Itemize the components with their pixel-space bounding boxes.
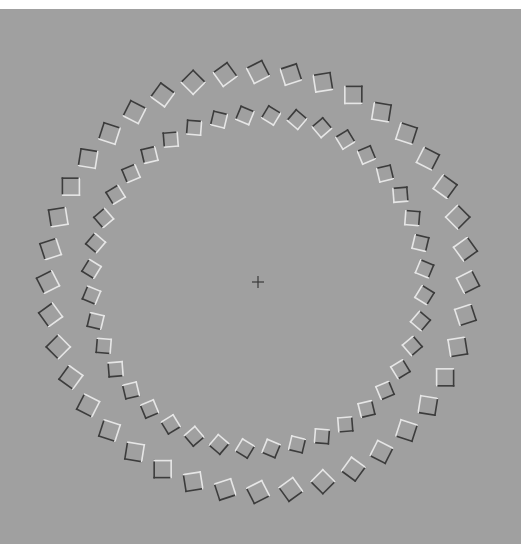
square-element xyxy=(287,110,307,130)
square-element xyxy=(181,70,205,94)
square-element xyxy=(370,440,393,463)
square-element xyxy=(78,149,97,168)
square-element xyxy=(87,313,104,330)
square-element xyxy=(46,335,70,359)
fixation-cross-icon xyxy=(252,276,264,288)
square-element xyxy=(184,426,204,446)
square-element xyxy=(140,400,158,418)
square-element xyxy=(161,415,180,434)
square-element xyxy=(261,106,280,125)
square-element xyxy=(154,461,171,478)
square-element xyxy=(396,123,417,144)
square-element xyxy=(433,175,457,199)
square-element xyxy=(341,457,365,481)
square-element xyxy=(279,478,303,502)
square-element xyxy=(412,235,429,252)
square-element xyxy=(446,205,470,229)
square-element xyxy=(358,401,375,418)
square-element xyxy=(37,271,60,294)
square-element xyxy=(396,420,417,441)
square-element xyxy=(125,442,144,461)
square-element xyxy=(415,260,433,278)
square-element xyxy=(106,185,125,204)
square-element xyxy=(49,207,68,226)
square-element xyxy=(448,337,467,356)
square-element xyxy=(314,429,329,444)
square-element xyxy=(377,165,394,182)
square-element xyxy=(247,61,270,84)
square-element xyxy=(123,382,140,399)
square-element xyxy=(457,271,480,294)
rotating-rings-illusion xyxy=(0,9,521,544)
square-element xyxy=(39,303,63,327)
square-element xyxy=(99,123,120,144)
square-element xyxy=(357,146,375,164)
square-element xyxy=(59,365,83,389)
square-element xyxy=(183,472,202,491)
square-element xyxy=(82,259,101,278)
square-element xyxy=(345,86,362,103)
square-element xyxy=(236,106,254,124)
square-element xyxy=(405,211,420,226)
square-element xyxy=(94,208,114,228)
square-element xyxy=(141,147,158,164)
square-element xyxy=(209,435,229,455)
square-element xyxy=(211,111,228,128)
square-element xyxy=(338,417,353,432)
square-element xyxy=(393,187,408,202)
square-element xyxy=(311,470,335,494)
square-element xyxy=(214,479,235,500)
square-element xyxy=(280,64,301,85)
square-element xyxy=(289,436,306,453)
square-element xyxy=(437,369,454,386)
square-element xyxy=(62,178,79,195)
square-element xyxy=(108,362,123,377)
square-element xyxy=(99,420,120,441)
square-element xyxy=(122,164,140,182)
square-element xyxy=(372,102,391,121)
square-element xyxy=(151,83,175,107)
square-element xyxy=(163,132,178,147)
square-element xyxy=(312,118,332,138)
square-element xyxy=(123,101,146,124)
square-element xyxy=(86,233,106,253)
square-element xyxy=(415,285,434,304)
square-element xyxy=(391,360,410,379)
square-element xyxy=(262,439,280,457)
square-element xyxy=(40,238,61,259)
square-element xyxy=(235,439,254,458)
square-element xyxy=(376,381,394,399)
square-element xyxy=(82,286,100,304)
square-element xyxy=(247,481,270,504)
square-element xyxy=(96,338,111,353)
square-element xyxy=(77,394,100,417)
square-element xyxy=(455,304,476,325)
square-element xyxy=(336,130,355,149)
square-element xyxy=(213,63,237,87)
illusion-canvas xyxy=(0,9,521,544)
square-element xyxy=(454,237,478,261)
square-element xyxy=(313,73,332,92)
square-element xyxy=(402,336,422,356)
square-element xyxy=(416,147,439,170)
square-element xyxy=(187,120,202,135)
square-element xyxy=(418,396,437,415)
square-element xyxy=(411,311,431,331)
